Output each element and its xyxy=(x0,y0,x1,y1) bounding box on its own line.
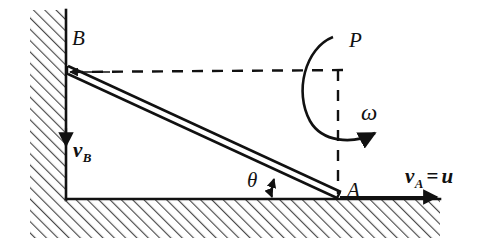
rod-ab xyxy=(67,66,341,198)
wall xyxy=(30,10,66,200)
velocity-b-subscript: B xyxy=(82,150,91,165)
label-velocity-a: vA=u xyxy=(405,166,453,190)
label-point-p: P xyxy=(349,30,362,51)
label-omega: ω xyxy=(361,101,377,124)
velocity-a-subscript: A xyxy=(414,176,423,191)
physics-diagram: B A P ω θ vB vA=u xyxy=(0,0,494,250)
equals-sign: = xyxy=(424,164,442,188)
ground xyxy=(30,199,440,238)
velocity-a-symbol: v xyxy=(405,164,414,188)
label-velocity-b: vB xyxy=(73,140,92,164)
angle-theta-arc xyxy=(271,179,274,197)
dashed-horizontal-line xyxy=(72,70,352,72)
label-point-a: A xyxy=(347,180,360,201)
velocity-a-value: u xyxy=(441,164,453,188)
label-theta: θ xyxy=(247,170,257,191)
velocity-b-symbol: v xyxy=(73,138,82,162)
label-point-b: B xyxy=(72,28,85,49)
